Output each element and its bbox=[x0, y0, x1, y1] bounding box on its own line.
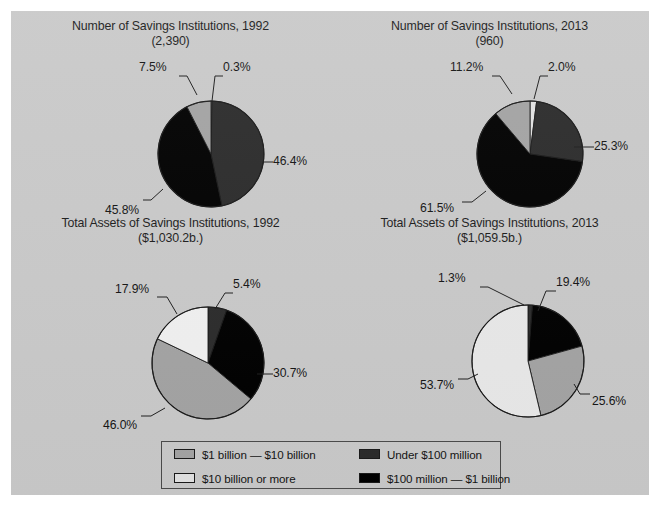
figure-panel: Number of Savings Institutions, 1992 (2,… bbox=[11, 11, 649, 495]
pie-label-number-2013-0: 2.0% bbox=[548, 60, 575, 74]
legend-label-ten-billion-or-more: $10 billion or more bbox=[202, 472, 295, 485]
pie-label-assets-2013-2: 25.6% bbox=[592, 394, 626, 408]
legend-item-one-to-ten-billion: $1 billion — $10 billion bbox=[174, 448, 359, 461]
pie-label-assets-1992-0: 5.4% bbox=[233, 277, 260, 291]
leader-line-assets-1992-0 bbox=[215, 293, 233, 309]
legend-box: $1 billion — $10 billion Under $100 mill… bbox=[161, 441, 501, 489]
pie-label-assets-2013-3: 53.7% bbox=[420, 378, 454, 392]
leader-line-number-1992-0 bbox=[212, 76, 223, 101]
pie-label-assets-2013-0: 1.3% bbox=[438, 271, 465, 285]
legend-swatch-100-million-to-1-billion bbox=[359, 473, 380, 483]
pie-number-2013: 2.0%25.3%61.5%11.2% bbox=[330, 19, 649, 221]
chart-panel-number-2013: Number of Savings Institutions, 2013 (96… bbox=[330, 19, 649, 221]
legend-item-under-100-million: Under $100 million bbox=[359, 448, 514, 461]
pie-label-assets-2013-1: 19.4% bbox=[556, 275, 590, 289]
pie-label-number-1992-3: 7.5% bbox=[139, 60, 166, 74]
pie-chart-number-1992 bbox=[11, 19, 330, 221]
pie-label-assets-1992-2: 46.0% bbox=[103, 418, 137, 432]
pie-label-assets-1992-3: 17.9% bbox=[115, 282, 149, 296]
pie-label-number-2013-3: 11.2% bbox=[450, 60, 483, 74]
pie-number-1992: 0.3%46.4%45.8%7.5% bbox=[11, 19, 330, 221]
pie-chart-number-2013 bbox=[330, 19, 649, 221]
pie-assets-1992: 5.4%30.7%46.0%17.9% bbox=[11, 216, 330, 431]
leader-line-number-2013-0 bbox=[534, 76, 548, 99]
pie-chart-assets-1992 bbox=[11, 216, 330, 431]
chart-panel-number-1992: Number of Savings Institutions, 1992 (2,… bbox=[11, 19, 330, 221]
legend-label-100-million-to-1-billion: $100 million — $1 billion bbox=[387, 472, 510, 485]
pie-label-assets-1992-1: 30.7% bbox=[273, 366, 307, 380]
leader-line-assets-1992-3 bbox=[157, 297, 177, 314]
chart-panel-assets-1992: Total Assets of Savings Institutions, 19… bbox=[11, 216, 330, 431]
leader-line-assets-1992-2 bbox=[141, 408, 165, 416]
pie-assets-2013: 1.3%19.4%25.6%53.7% bbox=[330, 216, 649, 431]
leader-line-number-2013-3 bbox=[492, 76, 512, 94]
chart-panel-assets-2013: Total Assets of Savings Institutions, 20… bbox=[330, 216, 649, 431]
legend-item-100-million-to-1-billion: $100 million — $1 billion bbox=[359, 472, 514, 485]
leader-line-number-2013-2 bbox=[462, 191, 486, 202]
leader-line-number-1992-3 bbox=[179, 76, 197, 95]
pie-label-number-1992-0: 0.3% bbox=[223, 60, 250, 74]
legend-label-under-100-million: Under $100 million bbox=[387, 448, 482, 461]
pie-label-number-2013-1: 25.3% bbox=[594, 139, 628, 153]
legend-swatch-ten-billion-or-more bbox=[174, 473, 195, 483]
legend-swatch-one-to-ten-billion bbox=[174, 449, 195, 459]
pie-label-number-2013-2: 61.5% bbox=[420, 201, 454, 215]
legend-label-one-to-ten-billion: $1 billion — $10 billion bbox=[202, 448, 316, 461]
leader-line-number-1992-2 bbox=[143, 189, 163, 200]
pie-slice-number-2013-1[interactable] bbox=[530, 101, 583, 161]
pie-label-number-1992-1: 46.4% bbox=[273, 154, 307, 168]
legend-grid: $1 billion — $10 billion Under $100 mill… bbox=[162, 442, 500, 488]
pie-label-number-1992-2: 45.8% bbox=[105, 203, 139, 217]
legend-swatch-under-100-million bbox=[359, 449, 380, 459]
legend-item-ten-billion-or-more: $10 billion or more bbox=[174, 472, 359, 485]
leader-line-assets-2013-0 bbox=[480, 287, 524, 305]
